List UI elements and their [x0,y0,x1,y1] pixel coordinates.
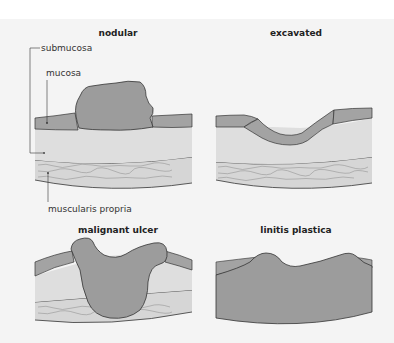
panel-excavated: excavated [216,28,372,188]
label-submucosa: submucosa [41,43,92,53]
mucosa-layer-right [152,114,192,128]
panel-title-malignant-ulcer: malignant ulcer [78,225,158,235]
panel-malignant-ulcer: malignant ulcer [35,225,192,323]
label-mucosa: mucosa [46,68,81,78]
panel-title-linitis-plastica: linitis plastica [260,225,331,235]
gastric-tumor-diagram: nodular submucosa mucosa muscularis prop… [0,0,394,343]
panel-title-nodular: nodular [98,28,138,38]
panel-nodular: nodular submucosa mucosa muscularis prop… [30,28,192,214]
panel-linitis-plastica: linitis plastica [216,225,372,324]
panel-title-excavated: excavated [270,28,322,38]
mucosa-layer-left [35,113,78,130]
submucosa-layer [35,126,192,163]
tumor-nodular [76,81,154,130]
label-muscularis-propria: muscularis propria [48,204,132,214]
